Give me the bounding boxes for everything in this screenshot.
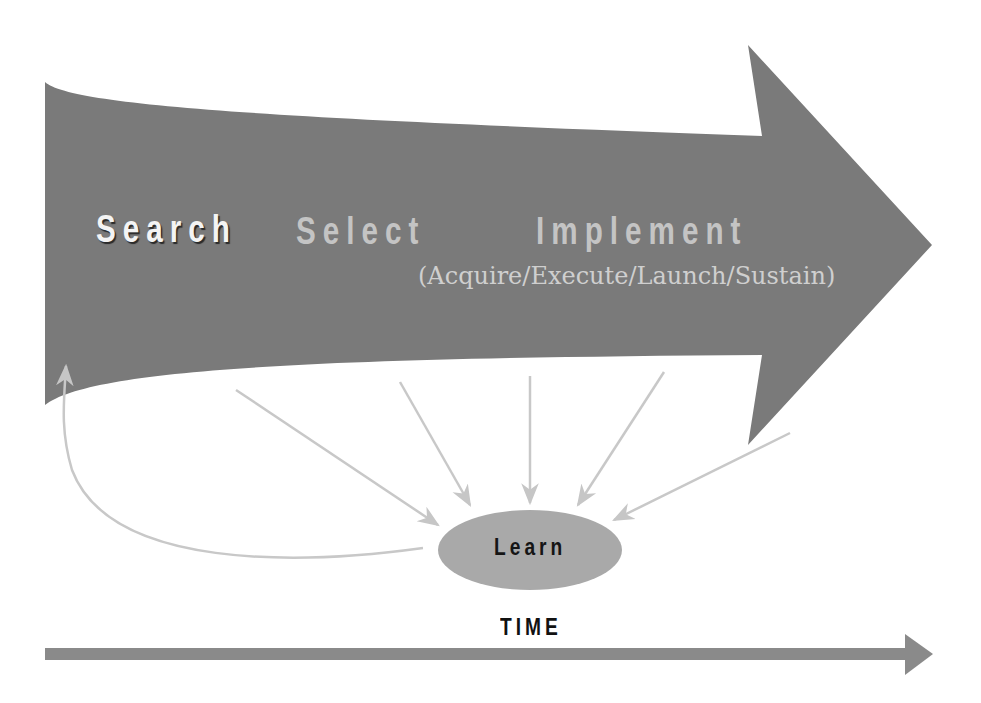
arrow-from-implement-right <box>578 372 664 505</box>
stage-search-label: Search <box>96 208 237 251</box>
time-axis-label: TIME <box>500 613 562 641</box>
arrow-from-select <box>400 382 470 505</box>
diagram-canvas <box>0 0 981 703</box>
learn-label: Learn <box>494 533 566 561</box>
stage-select-label: Select <box>296 210 425 253</box>
arrow-from-search <box>236 390 438 525</box>
arrow-from-arrowhead <box>614 433 790 520</box>
implement-sublabel: (Acquire/Execute/Launch/Sustain) <box>418 262 835 290</box>
stage-implement-label: Implement <box>536 210 747 253</box>
learn-incoming-arrows <box>236 372 790 525</box>
time-axis-arrow <box>45 634 933 675</box>
